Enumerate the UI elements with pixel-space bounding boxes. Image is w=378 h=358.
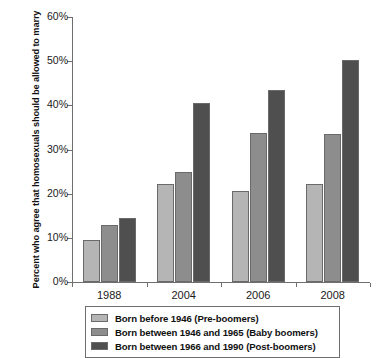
y-axis-line bbox=[72, 17, 73, 283]
y-axis-tick-label: 10% bbox=[47, 231, 68, 243]
x-axis-category-label: 2008 bbox=[296, 289, 371, 301]
legend-item: Born between 1966 and 1990 (Post-boomers… bbox=[91, 339, 333, 353]
y-axis-tick-label: 50% bbox=[47, 54, 68, 66]
x-axis-tick-mark bbox=[72, 283, 73, 287]
bar-group bbox=[83, 17, 136, 282]
y-axis-tick-label: 0% bbox=[53, 275, 68, 287]
x-axis-category-label: 2006 bbox=[221, 289, 296, 301]
legend-item: Born before 1946 (Pre-boomers) bbox=[91, 311, 333, 325]
y-axis-tick-label: 60% bbox=[47, 10, 68, 22]
legend: Born before 1946 (Pre-boomers)Born betwe… bbox=[85, 306, 340, 358]
legend-color-swatch bbox=[91, 342, 108, 350]
bar bbox=[250, 133, 267, 282]
bar-group bbox=[232, 17, 285, 282]
bar bbox=[157, 184, 174, 282]
x-axis-tick-mark bbox=[147, 283, 148, 287]
bar bbox=[193, 103, 210, 282]
legend-item-label: Born before 1946 (Pre-boomers) bbox=[115, 313, 259, 324]
bar-group bbox=[157, 17, 210, 282]
legend-color-swatch bbox=[91, 328, 108, 336]
y-axis-tick-label: 40% bbox=[47, 98, 68, 110]
bar bbox=[119, 218, 136, 282]
bar bbox=[83, 240, 100, 282]
legend-rows: Born before 1946 (Pre-boomers)Born betwe… bbox=[91, 311, 333, 353]
bar bbox=[232, 191, 249, 282]
bar bbox=[342, 60, 359, 282]
x-axis-tick-mark bbox=[296, 283, 297, 287]
y-axis-title-container: Percent who agree that homosexuals shoul… bbox=[0, 0, 34, 300]
bar bbox=[306, 184, 323, 282]
bar bbox=[324, 134, 341, 282]
bar-group bbox=[306, 17, 359, 282]
bar bbox=[268, 90, 285, 282]
x-axis-category-label: 1988 bbox=[72, 289, 147, 301]
x-axis-category-label: 2004 bbox=[147, 289, 222, 301]
y-axis-tick-label: 20% bbox=[47, 187, 68, 199]
x-axis-tick-mark bbox=[370, 283, 371, 287]
legend-item-label: Born between 1946 and 1965 (Baby boomers… bbox=[115, 327, 318, 338]
x-axis-tick-mark bbox=[221, 283, 222, 287]
bar bbox=[175, 172, 192, 282]
y-axis-tick-label: 30% bbox=[47, 143, 68, 155]
y-axis-title: Percent who agree that homosexuals shoul… bbox=[30, 7, 43, 292]
bar bbox=[101, 225, 118, 282]
legend-item: Born between 1946 and 1965 (Baby boomers… bbox=[91, 325, 333, 339]
legend-item-label: Born between 1966 and 1990 (Post-boomers… bbox=[115, 341, 316, 352]
plot-area: 0%10%20%30%40%50%60% 1988200420062008 bbox=[72, 17, 370, 283]
legend-color-swatch bbox=[91, 314, 108, 322]
